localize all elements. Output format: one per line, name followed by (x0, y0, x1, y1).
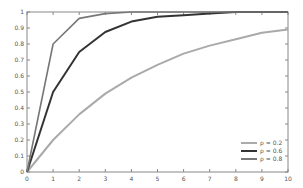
x-tick-label: 2 (77, 175, 81, 182)
y-tick-label: 0.4 (14, 104, 24, 111)
x-tick-label: 6 (182, 175, 186, 182)
x-tick-label: 1 (51, 175, 55, 182)
x-tick-label: 3 (103, 175, 107, 182)
y-tick-label: 0.2 (14, 136, 24, 143)
legend-label: ρ = 0.8 (260, 155, 282, 163)
legend-label: ρ = 0.2 (260, 139, 282, 147)
x-tick-label: 8 (234, 175, 238, 182)
x-tick-label: 7 (208, 175, 212, 182)
y-tick-label: 0.8 (14, 40, 24, 47)
y-tick-label: 0.1 (14, 152, 24, 159)
axes: 01234567891000.10.20.30.40.50.60.70.80.9… (14, 8, 292, 182)
legend: ρ = 0.2ρ = 0.6ρ = 0.8 (241, 139, 282, 163)
x-tick-label: 5 (156, 175, 160, 182)
y-tick-label: 0 (20, 168, 24, 175)
x-tick-label: 4 (129, 175, 133, 182)
legend-label: ρ = 0.6 (260, 147, 282, 155)
y-tick-label: 0.5 (14, 88, 24, 95)
data-lines (27, 12, 288, 172)
y-tick-label: 1 (20, 8, 24, 15)
y-tick-label: 0.6 (14, 72, 24, 79)
y-tick-label: 0.9 (14, 24, 24, 31)
y-tick-label: 0.7 (14, 56, 24, 63)
x-tick-label: 0 (25, 175, 29, 182)
line-chart: 01234567891000.10.20.30.40.50.60.70.80.9… (0, 0, 303, 188)
y-tick-label: 0.3 (14, 120, 24, 127)
x-tick-label: 10 (284, 175, 292, 182)
x-tick-label: 9 (260, 175, 264, 182)
